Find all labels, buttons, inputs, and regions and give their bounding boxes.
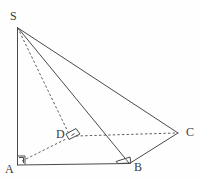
vertex-label-C: C (186, 126, 194, 138)
edge-DC (76, 133, 176, 136)
edge-AD (22, 139, 66, 161)
edge-AB (18, 164, 131, 166)
edge-BC (130, 133, 179, 164)
figure-canvas (0, 0, 202, 179)
vertex-label-A: A (5, 163, 14, 175)
edge-SC (18, 28, 178, 133)
right-angle-mark-D-tick (72, 134, 75, 136)
vertex-label-D: D (56, 128, 65, 140)
edge-SB (18, 28, 129, 163)
vertex-label-S: S (10, 10, 17, 22)
geometry-figure: S A B C D (0, 0, 202, 179)
vertex-label-B: B (134, 161, 142, 173)
